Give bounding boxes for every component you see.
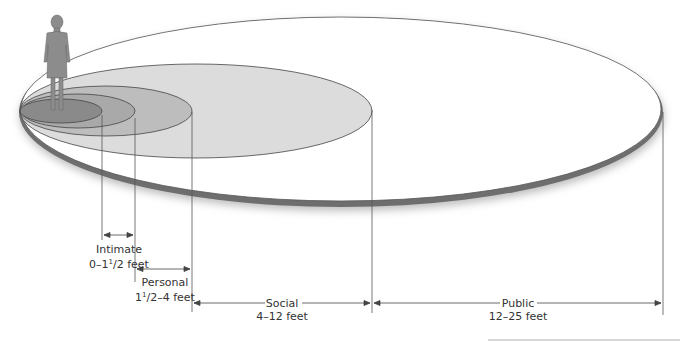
social-label: Social 4–12 feet (246, 297, 318, 323)
public-label: Public 12–25 feet (482, 297, 554, 323)
intimate-label: Intimate 0–11/2 feet (86, 243, 152, 271)
proxemics-diagram (0, 0, 683, 345)
personal-label: Personal 11/2–4 feet (132, 276, 198, 304)
